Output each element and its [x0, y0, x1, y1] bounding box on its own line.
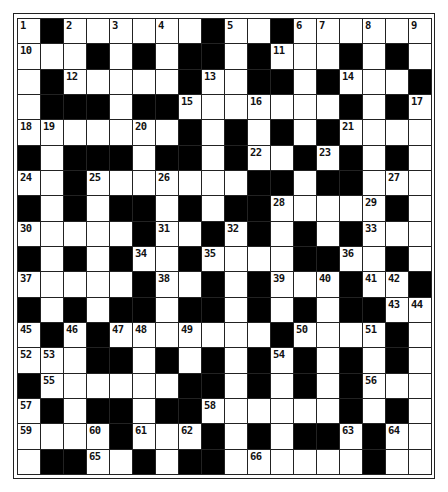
answer-cell[interactable]: [271, 222, 293, 246]
answer-cell[interactable]: [409, 424, 431, 448]
answer-cell[interactable]: [41, 424, 63, 448]
answer-cell[interactable]: [271, 247, 293, 271]
answer-cell[interactable]: [18, 70, 40, 94]
answer-cell[interactable]: [156, 374, 178, 398]
answer-cell[interactable]: 11: [271, 44, 293, 68]
answer-cell[interactable]: [110, 120, 132, 144]
answer-cell[interactable]: [386, 70, 408, 94]
answer-cell[interactable]: [294, 70, 316, 94]
answer-cell[interactable]: [87, 196, 109, 220]
answer-cell[interactable]: [363, 95, 385, 119]
answer-cell[interactable]: [317, 323, 339, 347]
answer-cell[interactable]: [179, 171, 201, 195]
answer-cell[interactable]: [248, 323, 270, 347]
answer-cell[interactable]: [110, 70, 132, 94]
answer-cell[interactable]: [294, 196, 316, 220]
answer-cell[interactable]: 42: [386, 272, 408, 296]
answer-cell[interactable]: [294, 120, 316, 144]
answer-cell[interactable]: [409, 120, 431, 144]
answer-cell[interactable]: [41, 146, 63, 170]
answer-cell[interactable]: 29: [363, 196, 385, 220]
answer-cell[interactable]: 3: [110, 19, 132, 43]
answer-cell[interactable]: [87, 222, 109, 246]
answer-cell[interactable]: [179, 272, 201, 296]
answer-cell[interactable]: [317, 399, 339, 423]
answer-cell[interactable]: [87, 247, 109, 271]
answer-cell[interactable]: 66: [248, 450, 270, 474]
answer-cell[interactable]: [363, 399, 385, 423]
answer-cell[interactable]: 55: [41, 374, 63, 398]
answer-cell[interactable]: [409, 323, 431, 347]
answer-cell[interactable]: [317, 222, 339, 246]
answer-cell[interactable]: [202, 196, 224, 220]
answer-cell[interactable]: 35: [202, 247, 224, 271]
answer-cell[interactable]: 47: [110, 323, 132, 347]
answer-cell[interactable]: 65: [87, 450, 109, 474]
answer-cell[interactable]: [64, 374, 86, 398]
answer-cell[interactable]: [202, 171, 224, 195]
answer-cell[interactable]: [87, 298, 109, 322]
answer-cell[interactable]: [110, 44, 132, 68]
answer-cell[interactable]: 54: [271, 348, 293, 372]
answer-cell[interactable]: [271, 424, 293, 448]
answer-cell[interactable]: 51: [363, 323, 385, 347]
answer-cell[interactable]: [41, 272, 63, 296]
answer-cell[interactable]: 27: [386, 171, 408, 195]
answer-cell[interactable]: [386, 374, 408, 398]
answer-cell[interactable]: 43: [386, 298, 408, 322]
answer-cell[interactable]: 53: [41, 348, 63, 372]
answer-cell[interactable]: [363, 247, 385, 271]
answer-cell[interactable]: [64, 120, 86, 144]
answer-cell[interactable]: 13: [202, 70, 224, 94]
answer-cell[interactable]: [248, 247, 270, 271]
answer-cell[interactable]: [409, 374, 431, 398]
answer-cell[interactable]: [156, 424, 178, 448]
answer-cell[interactable]: 28: [271, 196, 293, 220]
answer-cell[interactable]: [409, 196, 431, 220]
answer-cell[interactable]: 38: [156, 272, 178, 296]
answer-cell[interactable]: 12: [64, 70, 86, 94]
answer-cell[interactable]: [409, 450, 431, 474]
answer-cell[interactable]: [317, 348, 339, 372]
answer-cell[interactable]: 33: [363, 222, 385, 246]
answer-cell[interactable]: [225, 247, 247, 271]
answer-cell[interactable]: 46: [64, 323, 86, 347]
answer-cell[interactable]: [386, 450, 408, 474]
answer-cell[interactable]: [41, 247, 63, 271]
answer-cell[interactable]: 8: [363, 19, 385, 43]
answer-cell[interactable]: 9: [409, 19, 431, 43]
answer-cell[interactable]: [363, 70, 385, 94]
answer-cell[interactable]: [225, 44, 247, 68]
answer-cell[interactable]: [271, 146, 293, 170]
answer-cell[interactable]: [202, 120, 224, 144]
answer-cell[interactable]: 60: [87, 424, 109, 448]
answer-cell[interactable]: [271, 95, 293, 119]
answer-cell[interactable]: [179, 348, 201, 372]
answer-cell[interactable]: [248, 399, 270, 423]
answer-cell[interactable]: [363, 44, 385, 68]
answer-cell[interactable]: 7: [317, 19, 339, 43]
answer-cell[interactable]: [340, 19, 362, 43]
answer-cell[interactable]: 32: [225, 222, 247, 246]
answer-cell[interactable]: [64, 44, 86, 68]
answer-cell[interactable]: [64, 272, 86, 296]
answer-cell[interactable]: [386, 120, 408, 144]
answer-cell[interactable]: [317, 196, 339, 220]
answer-cell[interactable]: 14: [340, 70, 362, 94]
answer-cell[interactable]: 17: [409, 95, 431, 119]
answer-cell[interactable]: [18, 450, 40, 474]
answer-cell[interactable]: [110, 272, 132, 296]
answer-cell[interactable]: 18: [18, 120, 40, 144]
answer-cell[interactable]: 44: [409, 298, 431, 322]
answer-cell[interactable]: [156, 323, 178, 347]
answer-cell[interactable]: [179, 222, 201, 246]
answer-cell[interactable]: [225, 298, 247, 322]
answer-cell[interactable]: 50: [294, 323, 316, 347]
answer-cell[interactable]: 52: [18, 348, 40, 372]
answer-cell[interactable]: [87, 19, 109, 43]
answer-cell[interactable]: 1: [18, 19, 40, 43]
answer-cell[interactable]: 45: [18, 323, 40, 347]
answer-cell[interactable]: 36: [340, 247, 362, 271]
answer-cell[interactable]: 15: [179, 95, 201, 119]
answer-cell[interactable]: [271, 374, 293, 398]
